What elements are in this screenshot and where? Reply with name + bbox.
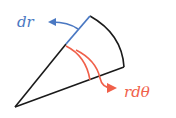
outer-arc (90, 16, 124, 67)
rdtheta-label: rdθ (124, 83, 150, 101)
dr-segment (66, 16, 90, 44)
polar-element-diagram: dr rdθ (0, 0, 176, 118)
dr-label: dr (17, 13, 35, 31)
dr-arrow (52, 22, 78, 29)
